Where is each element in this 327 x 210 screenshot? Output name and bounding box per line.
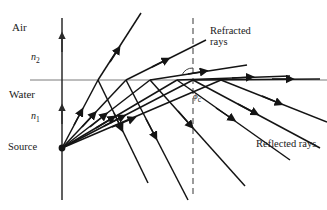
reflected-ray-2-arrow — [146, 119, 156, 138]
reflected-ray-1 — [98, 80, 148, 183]
source-point — [59, 145, 66, 152]
refracted-ray-1 — [98, 13, 141, 80]
label-air: Air — [12, 22, 27, 34]
label-critical-angle: ϕc — [193, 92, 201, 104]
label-reflected-rays: Reflected rays — [256, 138, 316, 149]
incident-ray-1-arrow — [74, 110, 82, 125]
phi-subscript: c — [198, 95, 201, 104]
refracted-ray-1-arrow — [110, 48, 119, 62]
label-source: Source — [8, 141, 37, 152]
n2-subscript: 2 — [36, 56, 40, 65]
refracted-ray-4-arrow — [232, 77, 252, 78]
reflected-ray-3-arrow — [178, 111, 192, 127]
refracted-line-2: rays — [210, 36, 251, 47]
refracted-line-1: Refracted — [210, 25, 251, 36]
ray-diagram-svg — [0, 0, 327, 210]
incident-ray-6-arrow — [112, 118, 134, 127]
refracted-rays-group — [98, 13, 320, 80]
reflected-ray-4-arrow — [216, 108, 234, 120]
reflected-ray-5-arrow — [238, 104, 257, 114]
label-refracted-rays: Refracted rays — [210, 25, 251, 47]
label-water: Water — [9, 89, 35, 101]
refracted-ray-grazing — [193, 79, 320, 80]
incident-ray-5 — [62, 80, 193, 148]
n1-subscript: 1 — [36, 115, 40, 124]
label-refractive-index-air: n2 — [31, 52, 40, 65]
refracted-ray-2-arrow — [152, 59, 168, 67]
reflected-ray-6-arrow — [262, 96, 281, 104]
label-refractive-index-water: n1 — [31, 111, 40, 124]
figure-canvas: Air n2 Water n1 Source Refracted rays Re… — [0, 0, 327, 210]
